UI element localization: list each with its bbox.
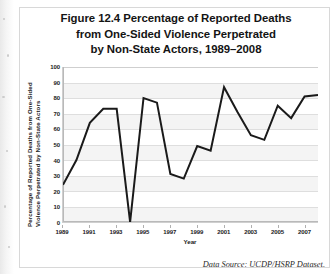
x-axis-title: Year	[62, 238, 318, 245]
figure-title-line-3: by Non-State Actors, 1989–2008	[28, 42, 324, 58]
y-axis-title-line-2: Violence Perpetrated by Non-State Actors	[34, 100, 41, 227]
y-axis-title-line-1: Percentage of Reported Deaths from One-S…	[26, 82, 33, 227]
x-axis-tick-mark	[170, 225, 171, 228]
y-axis-tick-label: 100	[50, 64, 60, 70]
x-axis-tick-label: 2001	[217, 229, 230, 235]
data-source-note: Data Source: UCDP/HSRP Dataset.	[0, 260, 325, 269]
x-axis-tick-labels: 1989199119931995199719992001200320052007	[62, 225, 318, 237]
x-axis-tick-label: 1997	[163, 229, 176, 235]
y-axis-tick-label: 10	[54, 204, 60, 210]
x-axis-tick-mark	[116, 225, 117, 228]
x-axis-tick-mark	[305, 225, 306, 228]
x-axis-tick-label: 1995	[136, 229, 149, 235]
x-axis-tick-mark	[251, 225, 252, 228]
x-axis-tick-label: 1993	[109, 229, 122, 235]
page-edge-artifact	[0, 0, 14, 274]
y-axis-tick-label: 80	[54, 95, 60, 101]
y-axis-tick-label: 60	[54, 126, 60, 132]
x-axis-tick-mark	[89, 225, 90, 228]
y-axis-tick-label: 0	[57, 220, 60, 226]
x-axis-tick-mark	[278, 225, 279, 228]
x-axis-tick-mark	[62, 225, 63, 228]
y-axis-tick-label: 90	[54, 80, 60, 86]
y-axis-tick-label: 40	[54, 158, 60, 164]
x-axis-tick-label: 1991	[82, 229, 95, 235]
x-axis-tick-mark	[224, 225, 225, 228]
figure-title-line-2: from One-Sided Violence Perpetrated	[28, 27, 324, 43]
plot-area	[62, 67, 318, 223]
y-axis-tick-label: 70	[54, 111, 60, 117]
x-axis-tick-label: 2003	[244, 229, 257, 235]
x-axis-tick-label: 1989	[56, 229, 69, 235]
x-axis-tick-label: 2007	[298, 229, 311, 235]
data-series-line	[63, 87, 318, 222]
y-axis-tick-labels: 1009080706050403020100	[44, 67, 60, 223]
x-axis-tick-label: 1999	[190, 229, 203, 235]
figure-title-line-1: Figure 12.4 Percentage of Reported Death…	[28, 11, 324, 27]
x-axis-tick-mark	[143, 225, 144, 228]
y-axis-tick-label: 50	[54, 142, 60, 148]
y-axis-tick-label: 20	[54, 189, 60, 195]
figure-title: Figure 12.4 Percentage of Reported Death…	[28, 11, 324, 58]
line-chart: Percentage of Reported Deaths from One-S…	[26, 62, 324, 240]
y-axis-title: Percentage of Reported Deaths from One-S…	[26, 62, 46, 227]
y-axis-tick-label: 30	[54, 173, 60, 179]
series-svg	[63, 67, 318, 222]
x-axis-tick-mark	[197, 225, 198, 228]
x-axis-tick-label: 2005	[271, 229, 284, 235]
